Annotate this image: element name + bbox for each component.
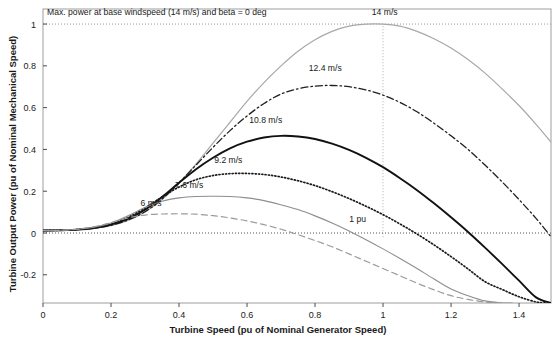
x-tick-label: 0 bbox=[40, 310, 45, 320]
x-axis-ticks: 00.20.40.60.811.21.4 bbox=[40, 303, 525, 320]
x-tick-label: 0.4 bbox=[173, 310, 186, 320]
y-axis-label-container: Turbine Output Power (pu of Nominal Mech… bbox=[2, 0, 20, 329]
curve-labels: 14 m/s12.4 m/s10.8 m/s9.2 m/s7.6 m/s6 m/… bbox=[141, 7, 398, 209]
chart-annotations: Max. power at base windspeed (14 m/s) an… bbox=[47, 7, 366, 224]
curve-6-m-s bbox=[43, 214, 546, 304]
curve-label-10.8-m-s: 10.8 m/s bbox=[249, 115, 282, 125]
curve-label-7.6-m-s: 7.6 m/s bbox=[175, 180, 203, 190]
curve-9.2-m-s bbox=[43, 173, 546, 303]
x-tick-label: 0.6 bbox=[241, 310, 254, 320]
curve-14-m-s bbox=[43, 24, 551, 231]
x-tick-label: 1.4 bbox=[513, 310, 526, 320]
y-axis-label: Turbine Output Power (pu of Nominal Mech… bbox=[7, 36, 18, 292]
curve-7.6-m-s bbox=[43, 196, 512, 303]
x-tick-label: 1.2 bbox=[445, 310, 458, 320]
y-tick-label: 1 bbox=[31, 20, 36, 30]
curve-12.4-m-s bbox=[43, 85, 551, 236]
chart-figure: 00.20.40.60.811.21.4 -0.200.20.40.60.81 … bbox=[0, 0, 556, 343]
y-tick-label: 0.2 bbox=[23, 187, 36, 197]
x-tick-label: 0.8 bbox=[309, 310, 322, 320]
curve-label-14-m-s: 14 m/s bbox=[372, 7, 398, 17]
y-tick-label: -0.2 bbox=[20, 270, 36, 280]
max-power-note: Max. power at base windspeed (14 m/s) an… bbox=[47, 7, 267, 17]
y-tick-label: 0.8 bbox=[23, 61, 36, 71]
x-tick-label: 0.2 bbox=[105, 310, 118, 320]
y-tick-label: 0.4 bbox=[23, 145, 36, 155]
y-tick-label: 0 bbox=[31, 229, 36, 239]
chart-canvas: 00.20.40.60.811.21.4 -0.200.20.40.60.81 … bbox=[0, 0, 556, 343]
x-tick-label: 1 bbox=[381, 310, 386, 320]
one-pu-note: 1 pu bbox=[349, 214, 366, 224]
y-tick-label: 0.6 bbox=[23, 103, 36, 113]
data-curves bbox=[43, 24, 551, 304]
reference-lines bbox=[43, 24, 551, 237]
curve-label-12.4-m-s: 12.4 m/s bbox=[309, 63, 342, 73]
curve-label-6-m-s: 6 m/s bbox=[141, 198, 162, 208]
curve-label-9.2-m-s: 9.2 m/s bbox=[214, 155, 242, 165]
x-axis-label: Turbine Speed (pu of Nominal Generator S… bbox=[0, 324, 556, 335]
